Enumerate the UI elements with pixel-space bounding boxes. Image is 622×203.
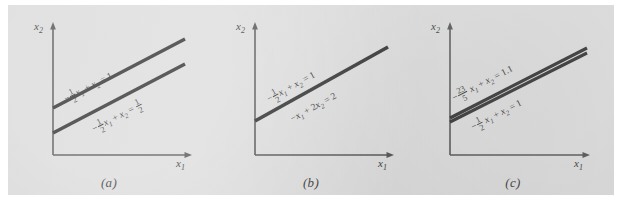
panel-b-caption: (b) bbox=[210, 175, 412, 191]
panel-c: x2 x1 −235 x1 + x2 = 1.1 −12 x1 + x2 = 1… bbox=[412, 5, 614, 195]
panel-a-caption: (a) bbox=[8, 175, 210, 191]
figure-container: x2 x1 −12x1 + x2 = 1 −12x1 + x2 = 12 (a)… bbox=[0, 0, 622, 203]
x-axis-label: x1 bbox=[574, 157, 583, 172]
x-axis-arrowhead bbox=[185, 152, 193, 158]
y-axis-label: x2 bbox=[236, 20, 245, 35]
x-axis-arrowhead bbox=[387, 152, 395, 158]
y-axis-arrowhead bbox=[50, 22, 56, 30]
x-axis-label: x1 bbox=[176, 157, 185, 172]
figure-plate: x2 x1 −12x1 + x2 = 1 −12x1 + x2 = 12 (a)… bbox=[8, 5, 614, 195]
y-axis-label: x2 bbox=[34, 20, 43, 35]
x-axis-label: x1 bbox=[378, 157, 387, 172]
y-axis-label: x2 bbox=[431, 20, 440, 35]
x-axis-arrowhead bbox=[583, 152, 591, 158]
y-axis-arrowhead bbox=[447, 22, 453, 30]
panel-b: x2 x1 −12x1 + x2 = 1 −x1 + 2x2 = 2 (b) bbox=[210, 5, 412, 195]
panel-c-caption: (c) bbox=[412, 175, 614, 191]
panel-a: x2 x1 −12x1 + x2 = 1 −12x1 + x2 = 12 (a) bbox=[8, 5, 210, 195]
y-axis-arrowhead bbox=[252, 22, 258, 30]
